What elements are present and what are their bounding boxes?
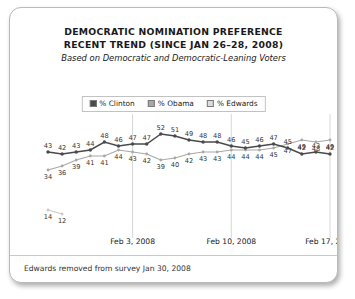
data-label: 52 — [157, 124, 165, 132]
data-point — [47, 169, 50, 172]
data-point — [174, 157, 177, 160]
data-point — [103, 155, 106, 158]
data-label: 43 — [72, 142, 80, 150]
legend-swatch-icon — [89, 100, 96, 107]
data-point — [103, 140, 106, 143]
data-label: 45 — [269, 151, 277, 159]
data-label: 43 — [312, 142, 320, 150]
data-point — [300, 139, 303, 142]
data-point — [328, 152, 331, 155]
data-point — [272, 142, 275, 145]
legend-label: % Clinton — [99, 99, 134, 108]
legend-label: % Edwards — [217, 99, 258, 108]
data-label: 43 — [128, 155, 136, 163]
data-label: 47 — [128, 134, 136, 142]
data-label: 41 — [100, 159, 108, 167]
chart-card: DEMOCRATIC NOMINATION PREFERENCE RECENT … — [9, 7, 338, 283]
title-line-2: RECENT TREND (SINCE JAN 26–28, 2008) — [10, 39, 337, 52]
data-label: 39 — [157, 163, 165, 171]
legend-swatch-icon — [207, 100, 214, 107]
data-label: 42 — [326, 144, 334, 152]
data-label: 48 — [199, 132, 207, 140]
data-label: 44 — [241, 153, 249, 161]
legend-swatch-icon — [148, 100, 155, 107]
data-point — [230, 149, 233, 152]
data-point — [188, 153, 191, 156]
data-label: 43 — [199, 155, 207, 163]
data-label: 51 — [171, 126, 179, 134]
data-label: 47 — [143, 134, 151, 142]
data-point — [75, 150, 78, 153]
x-axis-tick-label: Feb 17, 2008 — [305, 237, 338, 246]
data-point — [89, 148, 92, 151]
data-point — [131, 142, 134, 145]
data-label: 48 — [213, 132, 221, 140]
data-label: 42 — [58, 144, 66, 152]
data-point — [145, 142, 148, 145]
data-point — [131, 151, 134, 154]
data-label: 42 — [298, 144, 306, 152]
data-label: 48 — [100, 132, 108, 140]
data-point — [173, 134, 176, 137]
data-label: 40 — [171, 161, 179, 169]
data-point — [216, 140, 219, 143]
data-point — [216, 151, 219, 154]
data-label: 46 — [255, 136, 263, 144]
legend-label: % Obama — [158, 99, 194, 108]
data-label: 49 — [185, 130, 193, 138]
footer-divider — [10, 255, 338, 256]
data-point — [61, 213, 64, 216]
data-label: 42 — [143, 157, 151, 165]
data-point — [159, 132, 162, 135]
chart-plot-area: 1412343639414144434239404243434444444547… — [10, 114, 338, 242]
data-label: 46 — [114, 136, 122, 144]
data-label: 36 — [58, 169, 66, 177]
data-point — [46, 150, 49, 153]
data-label: 43 — [44, 142, 52, 150]
data-point — [258, 149, 261, 152]
title-line-1: DEMOCRATIC NOMINATION PREFERENCE — [10, 26, 337, 39]
chart-footnote: Edwards removed from survey Jan 30, 2008 — [24, 264, 191, 273]
data-point — [202, 151, 205, 154]
data-point — [61, 165, 64, 168]
data-point — [230, 144, 233, 147]
data-label: 44 — [255, 153, 263, 161]
legend-item-obama[interactable]: % Obama — [148, 99, 194, 108]
data-label: 46 — [227, 136, 235, 144]
chart-legend: % Clinton% Obama% Edwards — [81, 96, 265, 112]
x-axis-tick-label: Feb 10, 2008 — [206, 237, 256, 246]
data-point — [244, 146, 247, 149]
data-point — [89, 155, 92, 158]
data-point — [258, 144, 261, 147]
data-label: 44 — [114, 153, 122, 161]
data-label: 43 — [213, 155, 221, 163]
data-point — [117, 149, 120, 152]
data-label: 47 — [269, 134, 277, 142]
data-point — [187, 138, 190, 141]
data-label: 41 — [86, 159, 94, 167]
data-point — [286, 146, 289, 149]
chart-svg: 1412343639414144434239404243434444444547… — [10, 114, 338, 242]
data-label: 44 — [86, 140, 94, 148]
data-point — [60, 152, 63, 155]
data-point — [47, 209, 50, 212]
data-point — [300, 152, 303, 155]
chart-subtitle: Based on Democratic and Democratic-Leani… — [10, 52, 337, 65]
data-point — [201, 140, 204, 143]
x-axis-tick-label: Feb 3, 2008 — [110, 237, 155, 246]
legend-item-edwards[interactable]: % Edwards — [207, 99, 258, 108]
data-point — [159, 159, 162, 162]
series-edwards: 1412 — [44, 209, 66, 225]
data-point — [272, 147, 275, 150]
data-label: 42 — [185, 157, 193, 165]
data-label: 44 — [227, 153, 235, 161]
data-point — [145, 153, 148, 156]
data-label: 39 — [72, 163, 80, 171]
data-label: 45 — [284, 138, 292, 146]
chart-titles: DEMOCRATIC NOMINATION PREFERENCE RECENT … — [10, 26, 337, 65]
data-point — [329, 139, 332, 142]
data-point — [117, 144, 120, 147]
data-point — [75, 159, 78, 162]
data-point — [314, 150, 317, 153]
legend-item-clinton[interactable]: % Clinton — [89, 99, 134, 108]
